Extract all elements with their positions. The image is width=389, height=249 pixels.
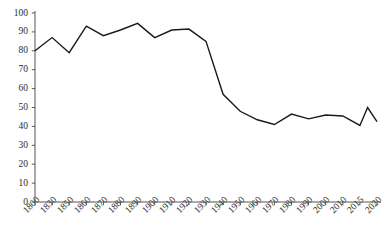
line-chart: 0102030405060708090100 18001830185018601… xyxy=(0,0,389,249)
data-series-line xyxy=(35,23,377,125)
axis-lines xyxy=(35,11,381,202)
x-axis-ticks xyxy=(35,202,377,205)
plot-area xyxy=(0,0,389,249)
